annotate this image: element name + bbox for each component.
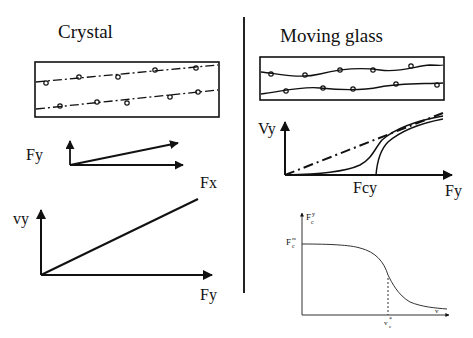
force-vector-diagram: Fy Fx bbox=[26, 141, 217, 191]
moving-glass-panel: Moving glass Vy Fcy bbox=[258, 25, 462, 329]
critical-force-plot: F y c F m c v v * c bbox=[286, 211, 449, 329]
fcy-axis-sub: c bbox=[311, 219, 314, 225]
fcm-tick-sup: m bbox=[292, 236, 296, 241]
crystal-vy-label: vy bbox=[13, 210, 29, 228]
glass-vy-label: Vy bbox=[258, 120, 276, 138]
glass-velocity-plot: Vy Fcy Fy bbox=[258, 113, 462, 200]
fcm-tick-label: F bbox=[286, 237, 291, 247]
crystal-lattice-box bbox=[35, 62, 219, 117]
glass-lattice-box bbox=[260, 57, 444, 100]
v-axis-label: v bbox=[435, 307, 439, 315]
vc-tick-label: v bbox=[384, 319, 388, 327]
crystal-velocity-plot: vy Fy bbox=[13, 199, 217, 304]
threshold-fcy-label: Fcy bbox=[353, 179, 377, 197]
fy-label: Fy bbox=[26, 146, 43, 164]
fcy-axis-sup: y bbox=[312, 211, 315, 217]
vc-tick-sup: * bbox=[389, 316, 392, 322]
vc-tick-sub: c bbox=[389, 324, 392, 329]
moving-glass-title: Moving glass bbox=[280, 25, 383, 46]
crystal-title: Crystal bbox=[58, 21, 113, 42]
glass-fy-label: Fy bbox=[445, 182, 462, 200]
fx-label: Fx bbox=[200, 174, 217, 191]
crystal-panel: Crystal Fy Fx bbox=[13, 21, 219, 304]
crystal-fy-label: Fy bbox=[200, 286, 217, 304]
fcm-tick-sub: c bbox=[292, 243, 295, 249]
diagram-canvas: Crystal Fy Fx bbox=[0, 0, 473, 338]
